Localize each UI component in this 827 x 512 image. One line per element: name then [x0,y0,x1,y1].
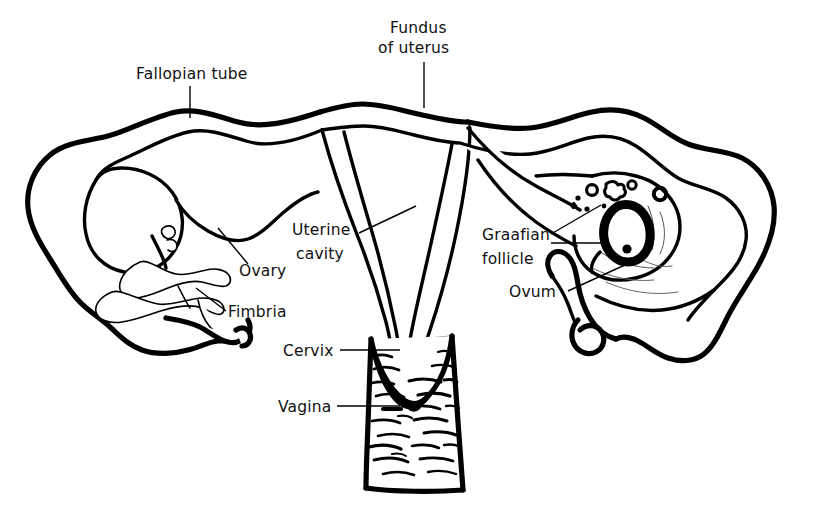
left-tubal-knot-detail [162,226,176,239]
follicle-dot-1 [575,195,580,200]
uterine-cavity-left-border [344,132,400,362]
vagina-left-wall [366,339,371,488]
label-fallopian-tube: Fallopian tube [136,65,248,83]
follicle-dot-2 [584,206,589,211]
follicle-irregular-1 [605,181,626,200]
label-graafian-follicle-line1: Graafian [482,226,550,244]
uterus-outer-wall-left [320,104,468,122]
label-graafian-follicle-line2: follicle [482,250,534,268]
left-tubal-knot-detail-2 [167,239,177,251]
label-cervix: Cervix [283,342,334,360]
uterus-body-right-wall [421,126,470,360]
ovum-body [622,244,631,253]
label-ovary: Ovary [239,262,286,280]
anatomy-diagram: Fallopian tube Fundus of uterus Uterine … [0,0,827,512]
uterus-body-left-wall [322,130,392,358]
follicle-dot-3 [602,204,607,209]
label-fundus-line1: Fundus [390,19,447,37]
uterus-fundus-inner [322,126,458,143]
vagina-group [366,336,463,491]
label-uterine-cavity-line1: Uterine [292,221,350,239]
vagina-bottom-edge [366,488,463,491]
label-fundus-line2: of uterus [378,39,449,57]
label-uterine-cavity-line2: cavity [296,245,344,263]
label-vagina: Vagina [278,398,332,416]
anatomy-svg-canvas: Fallopian tube Fundus of uterus Uterine … [0,0,827,512]
right-ovary-medial-border [536,175,592,177]
vagina-right-wall [452,336,463,490]
label-fimbria: Fimbria [228,303,287,321]
label-ovum: Ovum [509,283,556,301]
